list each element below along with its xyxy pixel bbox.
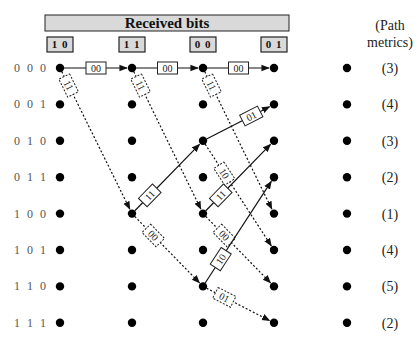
trellis-node xyxy=(199,100,207,108)
path-metric-value: (2) xyxy=(382,316,399,332)
trellis-node xyxy=(270,100,278,108)
trellis-node xyxy=(56,246,64,254)
path-metric-value: (3) xyxy=(382,61,399,77)
trellis-edge: 01 xyxy=(207,106,270,139)
trellis-edge: 11 xyxy=(202,72,272,210)
trellis-node xyxy=(128,282,136,290)
branch-output-label: 00 xyxy=(158,62,178,74)
bits-value: 0 0 xyxy=(195,38,212,50)
trellis-node xyxy=(270,282,278,290)
state-label: 0 0 0 xyxy=(14,61,48,75)
trellis-node xyxy=(270,246,278,254)
trellis-nodes xyxy=(56,64,351,327)
trellis-node xyxy=(199,137,207,145)
trellis-node xyxy=(56,137,64,145)
trellis-node xyxy=(199,319,207,327)
trellis-node xyxy=(343,137,351,145)
received-bits-box: 0 1 xyxy=(261,37,287,52)
trellis-edge: 11 xyxy=(59,72,130,210)
trellis-node xyxy=(199,173,207,181)
header-title: Received bits xyxy=(125,15,210,31)
trellis-node xyxy=(343,282,351,290)
received-bits-box: 1 1 xyxy=(119,37,145,52)
trellis-node xyxy=(199,209,207,217)
state-label: 1 1 0 xyxy=(14,279,48,293)
trellis-node xyxy=(128,173,136,181)
trellis-node xyxy=(128,137,136,145)
trellis-node xyxy=(199,246,207,254)
branch-output-label: 00 xyxy=(229,62,249,74)
trellis-node xyxy=(343,100,351,108)
trellis-node xyxy=(56,282,64,290)
branch-label-text: 00 xyxy=(91,63,101,74)
trellis-node xyxy=(343,319,351,327)
trellis-diagram: Received bits 1 01 10 00 1 (Path metrics… xyxy=(0,0,420,344)
trellis-node xyxy=(270,319,278,327)
path-metric-value: (1) xyxy=(382,207,399,223)
trellis-node xyxy=(56,64,64,72)
trellis-node xyxy=(343,246,351,254)
trellis-edge: 00 xyxy=(207,62,269,74)
trellis-node xyxy=(343,173,351,181)
trellis-node xyxy=(199,282,207,290)
branch-output-label: 00 xyxy=(86,62,106,74)
branch-output-label: 10 xyxy=(210,247,231,270)
trellis-edge: 11 xyxy=(131,72,201,210)
received-bits-header: Received bits xyxy=(45,15,289,31)
received-bits-box: 1 0 xyxy=(47,37,73,52)
trellis-edge: 00 xyxy=(135,216,200,282)
state-label: 0 1 1 xyxy=(14,170,48,184)
trellis-node xyxy=(199,64,207,72)
trellis-node xyxy=(56,319,64,327)
state-label: 0 0 1 xyxy=(14,97,48,111)
state-label: 1 0 0 xyxy=(14,207,48,221)
trellis-node xyxy=(56,100,64,108)
path-metric-value: (4) xyxy=(382,97,399,113)
bits-value: 1 1 xyxy=(124,38,141,50)
trellis-edge: 00 xyxy=(206,216,271,282)
dotted-branch-line xyxy=(135,216,200,282)
trellis-edges: 0000001111111100011011001001 xyxy=(59,62,272,321)
trellis-node xyxy=(270,173,278,181)
path-metric-value: (2) xyxy=(382,170,399,186)
trellis-node xyxy=(56,209,64,217)
state-label: 0 1 0 xyxy=(14,134,48,148)
bits-value: 0 1 xyxy=(266,38,283,50)
trellis-node xyxy=(128,64,136,72)
branch-output-label: 11 xyxy=(59,74,79,97)
bits-value: 1 0 xyxy=(52,38,69,50)
path-metric-value: (3) xyxy=(382,134,399,150)
trellis-node xyxy=(128,100,136,108)
trellis-edge: 00 xyxy=(136,62,198,74)
branch-output-label: 01 xyxy=(240,106,263,126)
trellis-node xyxy=(128,319,136,327)
trellis-edge: 01 xyxy=(207,287,270,320)
metrics-title-line1: (Path xyxy=(375,18,405,34)
path-metrics: (3)(4)(3)(2)(1)(4)(5)(2) xyxy=(382,61,399,332)
branch-label-text: 00 xyxy=(234,63,244,74)
received-bits-box: 0 0 xyxy=(190,37,216,52)
branch-output-label: 01 xyxy=(213,287,236,307)
trellis-node xyxy=(270,64,278,72)
state-label: 1 1 1 xyxy=(14,316,48,330)
metrics-title-line2: metrics) xyxy=(367,35,413,51)
dotted-branch-line xyxy=(206,216,271,282)
trellis-node xyxy=(128,209,136,217)
trellis-edge: 11 xyxy=(206,144,271,210)
trellis-node xyxy=(56,173,64,181)
received-bits-row: 1 01 10 00 1 xyxy=(47,37,287,52)
branch-label-text: 00 xyxy=(163,63,173,74)
branch-output-label: 11 xyxy=(202,74,222,97)
trellis-edge: 11 xyxy=(135,144,200,210)
branch-output-label: 11 xyxy=(131,74,151,97)
path-metric-value: (5) xyxy=(382,279,399,295)
trellis-node xyxy=(343,209,351,217)
state-labels: 0 0 00 0 10 1 00 1 11 0 01 0 11 1 01 1 1 xyxy=(14,61,48,330)
trellis-node xyxy=(270,137,278,145)
branch-output-label: 10 xyxy=(214,162,235,185)
trellis-node xyxy=(128,246,136,254)
trellis-node xyxy=(343,64,351,72)
trellis-node xyxy=(270,209,278,217)
trellis-edge: 00 xyxy=(64,62,127,74)
state-label: 1 0 1 xyxy=(14,243,48,257)
